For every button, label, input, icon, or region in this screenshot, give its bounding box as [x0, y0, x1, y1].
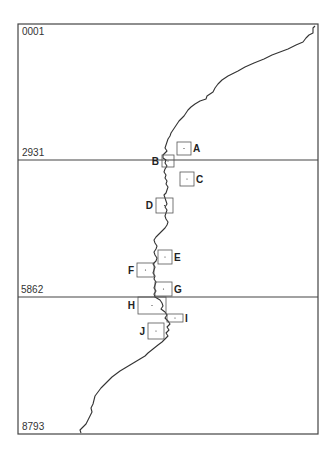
trace-diagram: 0001 2931 5862 8793 ABCDEFGHIJ: [0, 0, 336, 460]
marker-dot: [163, 288, 164, 289]
marker-box-j: J: [139, 323, 164, 339]
marker-box-g: G: [155, 282, 182, 296]
marker-label: J: [139, 326, 145, 337]
marker-dot: [164, 205, 165, 206]
marker-box-c: C: [180, 172, 203, 186]
row-dividers: [18, 160, 318, 297]
marker-dot: [155, 330, 156, 331]
marker-dot: [186, 178, 187, 179]
marker-dot: [167, 160, 168, 161]
trace-line: [80, 26, 315, 433]
marker-dot: [183, 148, 184, 149]
marker-dot: [151, 305, 152, 306]
marker-boxes: ABCDEFGHIJ: [128, 142, 203, 339]
marker-box-f: F: [128, 263, 154, 277]
marker-box-d: D: [146, 198, 173, 213]
row-label-2931: 2931: [22, 147, 45, 158]
marker-label: A: [193, 143, 200, 154]
marker-label: I: [185, 313, 188, 324]
row-label-0001: 0001: [22, 26, 45, 37]
marker-dot: [145, 269, 146, 270]
marker-box-i: I: [167, 313, 188, 324]
marker-label: B: [152, 156, 159, 167]
row-label-8793: 8793: [22, 421, 45, 432]
marker-label: G: [174, 284, 182, 295]
marker-label: F: [128, 265, 134, 276]
outer-frame: [18, 24, 318, 434]
marker-label: E: [174, 252, 181, 263]
marker-dot: [174, 317, 175, 318]
row-labels: 0001 2931 5862 8793: [21, 26, 45, 432]
marker-label: D: [146, 200, 153, 211]
marker-dot: [164, 256, 165, 257]
marker-label: C: [196, 174, 203, 185]
marker-label: H: [128, 300, 135, 311]
row-label-5862: 5862: [21, 284, 44, 295]
marker-box-a: A: [177, 142, 200, 155]
marker-box-e: E: [158, 250, 181, 264]
